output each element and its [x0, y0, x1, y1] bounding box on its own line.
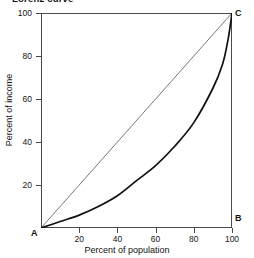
y-tick-label: 80	[23, 52, 32, 61]
x-tick-label: 60	[146, 235, 166, 244]
lorenz-curve-chart: Lorenz curve 100 80 60 40 20 20 40 60 80…	[0, 0, 254, 258]
chart-title: Lorenz curve	[12, 0, 74, 4]
y-tick-label: 100	[18, 9, 32, 18]
x-tick-label: 20	[69, 235, 89, 244]
x-tick-mark	[194, 228, 195, 233]
x-tick-mark	[232, 228, 233, 233]
x-tick-mark	[79, 228, 80, 233]
x-tick-label: 40	[107, 235, 127, 244]
y-tick-label: 40	[23, 138, 32, 147]
x-axis-title: Percent of population	[0, 245, 254, 255]
y-tick-label: 20	[23, 181, 32, 190]
vertex-label-c: C	[235, 8, 242, 18]
line-of-equality	[41, 13, 232, 228]
x-tick-mark	[117, 228, 118, 233]
y-axis-title: Percent of income	[4, 45, 14, 175]
x-tick-mark	[156, 228, 157, 233]
x-tick-label: 80	[184, 235, 204, 244]
plot-lines	[41, 13, 232, 228]
vertex-label-a: A	[31, 228, 38, 238]
y-tick-label: 60	[23, 95, 32, 104]
x-tick-label: 100	[222, 235, 242, 244]
vertex-label-b: B	[235, 213, 242, 223]
